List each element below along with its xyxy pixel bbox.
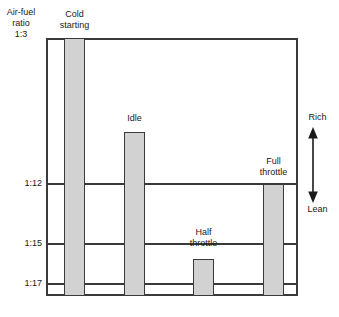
bar-full-throttle[interactable] bbox=[263, 184, 284, 296]
bar-label-cold-starting-line2: starting bbox=[35, 20, 114, 31]
y-axis-tick-label-1-15: 1:15 bbox=[0, 238, 42, 248]
lean-label: Lean bbox=[296, 204, 339, 214]
bar-label-half-throttle: Half throttle bbox=[164, 227, 243, 249]
air-fuel-ratio-chart: Air-fuel ratio 1:3 1:12 1:15 1:17 Cold s… bbox=[0, 0, 339, 317]
y-axis-tick-label-1-12: 1:12 bbox=[0, 178, 42, 188]
bar-half-throttle[interactable] bbox=[193, 259, 214, 296]
bar-label-cold-starting: Cold starting bbox=[35, 9, 114, 31]
bar-cold-starting[interactable] bbox=[64, 38, 85, 296]
bar-label-idle-line1: Idle bbox=[95, 113, 174, 124]
bar-label-idle: Idle bbox=[95, 113, 174, 124]
y-axis-tick-label-1-17: 1:17 bbox=[0, 278, 42, 288]
rich-lean-double-arrow-icon bbox=[296, 112, 339, 217]
bar-label-cold-starting-line1: Cold bbox=[35, 9, 114, 20]
bar-label-half-throttle-line1: Half bbox=[164, 227, 243, 238]
bar-label-half-throttle-line2: throttle bbox=[164, 238, 243, 249]
bar-idle[interactable] bbox=[124, 132, 145, 296]
rich-lean-indicator: Rich Lean bbox=[296, 112, 339, 217]
